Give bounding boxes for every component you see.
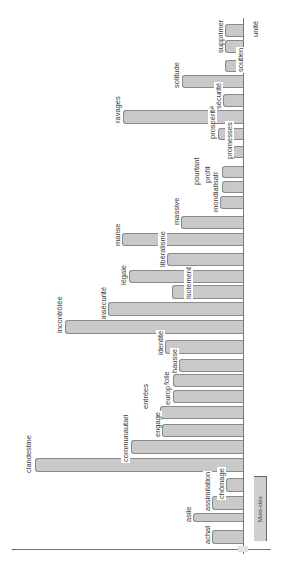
bar-massive <box>181 216 243 229</box>
bar-label: chômage <box>217 467 226 500</box>
category-axis <box>12 549 270 550</box>
bar-label: identité <box>156 330 165 356</box>
bar-label: soutien <box>236 47 245 73</box>
bar-label: massive <box>172 196 181 226</box>
bar-isolement <box>172 285 243 299</box>
bar-sécurité <box>223 94 243 107</box>
bar-promesses <box>233 146 243 158</box>
bar-insécurité <box>108 302 243 316</box>
bar-label: achat <box>203 525 212 545</box>
bar-achat <box>212 530 243 544</box>
bar-europe <box>173 390 243 403</box>
bar-folle <box>173 374 243 387</box>
axis-arrow-right-icon: → <box>264 545 272 553</box>
bar-label: unité <box>251 20 260 38</box>
bar-label: pourtant <box>192 156 201 186</box>
bar-unité <box>225 24 243 37</box>
bar-incontrôlée <box>65 320 243 334</box>
bar-label: solitude <box>172 61 181 89</box>
bar-label: hausse <box>170 348 179 374</box>
bar-label: mondialisati <box>211 171 220 213</box>
bar-libéralisme <box>167 253 243 266</box>
bar-label: asile <box>184 506 193 523</box>
chart-canvas: ← → Mots-clés achatasileassimilationchôm… <box>0 0 287 571</box>
bar-solitude <box>182 75 243 88</box>
bar-profit <box>222 181 243 193</box>
bar-mondialisati <box>220 196 243 209</box>
bar-label: libéralisme <box>158 230 167 268</box>
bar-label: légale <box>119 264 128 286</box>
bar-engage <box>162 424 243 437</box>
bar-label: ravages <box>113 95 122 124</box>
value-baseline <box>243 18 244 554</box>
bar-chômage <box>226 478 243 492</box>
legend-label: Mots-clés <box>257 496 263 522</box>
bar-label: insécurité <box>99 286 108 320</box>
bar-entrées <box>160 406 243 419</box>
bar-communautari <box>131 440 243 454</box>
bar-label: promesses <box>225 121 234 160</box>
bar-manse <box>122 233 243 246</box>
axis-origin-marker <box>238 546 248 552</box>
bar-asile <box>193 513 243 522</box>
bar-label: assimilation <box>203 471 212 512</box>
bar-label: sécurité <box>214 82 223 110</box>
bar-label: engage <box>153 411 162 438</box>
bar-label: communautari <box>121 413 130 463</box>
bar-label: clandestine <box>24 434 33 474</box>
bar-label: entrées <box>141 383 150 410</box>
bar-pourtant <box>222 166 243 178</box>
bar-label: incontrôlée <box>55 295 64 334</box>
axis-arrow-left-icon: ← <box>10 545 18 553</box>
bar-label: profit <box>203 165 212 184</box>
bar-label: isolement <box>184 266 193 300</box>
bar-hausse <box>179 359 243 372</box>
bar-label: supprimer <box>216 19 225 54</box>
bar-label: manse <box>113 222 122 247</box>
